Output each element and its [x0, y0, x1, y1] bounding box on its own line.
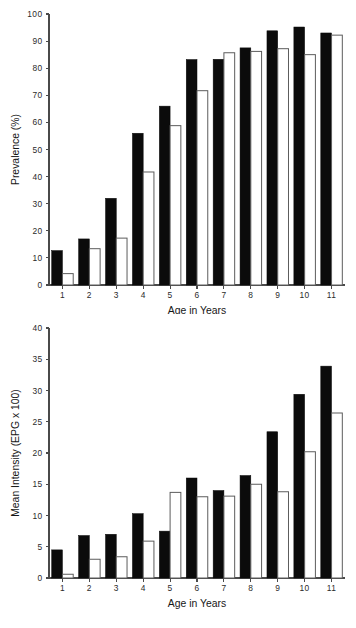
bar-solid — [321, 33, 332, 285]
x-axis-tick-label: 5 — [168, 290, 173, 300]
x-axis-tick-label: 5 — [168, 583, 173, 593]
bar-open — [143, 172, 154, 285]
bar-open — [305, 452, 316, 578]
x-axis-tick-label: 10 — [300, 583, 310, 593]
bar-open — [116, 238, 127, 285]
y-axis-tick-label: 30 — [32, 199, 42, 209]
bar-open — [305, 55, 316, 285]
bar-solid — [79, 536, 90, 579]
x-axis-tick-label: 6 — [194, 290, 199, 300]
y-axis-tick-label: 70 — [32, 90, 42, 100]
x-axis-tick-label: 1 — [60, 583, 65, 593]
y-axis-tick-label: 35 — [32, 354, 42, 364]
y-axis-tick-label: 20 — [32, 448, 42, 458]
bar-solid — [267, 432, 278, 578]
bar-open — [251, 51, 262, 285]
figure-root: 01020304050607080901001234567891011Age i… — [0, 0, 356, 628]
chart-panel-mean-intensity: 05101520253035401234567891011Age in Year… — [0, 314, 356, 628]
bar-open — [251, 484, 262, 578]
y-axis-tick-label: 100 — [27, 9, 42, 19]
bar-solid — [132, 514, 143, 578]
y-axis-tick-label: 80 — [32, 63, 42, 73]
bar-solid — [159, 531, 170, 578]
x-axis-tick-label: 4 — [141, 583, 146, 593]
x-axis-tick-label: 3 — [114, 290, 119, 300]
x-axis-tick-label: 4 — [141, 290, 146, 300]
x-axis-tick-label: 8 — [248, 583, 253, 593]
x-axis-tick-label: 2 — [87, 290, 92, 300]
y-axis-tick-label: 20 — [32, 226, 42, 236]
x-axis-tick-label: 2 — [87, 583, 92, 593]
x-axis-tick-label: 3 — [114, 583, 119, 593]
bar-open — [278, 492, 289, 578]
x-axis-tick-label: 7 — [221, 583, 226, 593]
x-axis-title: Age in Years — [168, 305, 226, 314]
bar-open — [62, 574, 73, 578]
chart-panel-prevalence: 01020304050607080901001234567891011Age i… — [0, 0, 356, 314]
y-axis-tick-label: 30 — [32, 386, 42, 396]
bar-open — [89, 559, 100, 578]
y-axis-title: Prevalence (%) — [10, 114, 21, 185]
y-axis-tick-label: 25 — [32, 417, 42, 427]
bar-solid — [213, 59, 224, 285]
bar-solid — [79, 239, 90, 285]
bar-solid — [240, 48, 251, 285]
bar-open — [197, 497, 208, 578]
x-axis-tick-label: 9 — [275, 290, 280, 300]
bar-open — [332, 413, 343, 578]
bar-solid — [294, 27, 305, 285]
bar-open — [224, 496, 235, 578]
y-axis-tick-label: 10 — [32, 511, 42, 521]
bar-solid — [186, 478, 197, 578]
x-axis-tick-label: 7 — [221, 290, 226, 300]
bar-solid — [213, 491, 224, 579]
y-axis-tick-label: 10 — [32, 253, 42, 263]
y-axis-tick-label: 60 — [32, 117, 42, 127]
bar-open — [278, 49, 289, 285]
bar-solid — [52, 251, 63, 285]
mean-intensity-bar-chart: 05101520253035401234567891011Age in Year… — [0, 314, 356, 628]
x-axis-tick-label: 9 — [275, 583, 280, 593]
bar-solid — [106, 534, 117, 578]
bar-open — [332, 35, 343, 285]
x-axis-tick-label: 8 — [248, 290, 253, 300]
y-axis-tick-label: 0 — [37, 280, 42, 290]
x-axis-tick-label: 11 — [327, 583, 337, 593]
x-axis-tick-label: 6 — [194, 583, 199, 593]
bar-open — [116, 557, 127, 578]
x-axis-tick-label: 11 — [327, 290, 337, 300]
y-axis-tick-label: 5 — [37, 542, 42, 552]
bar-solid — [294, 394, 305, 578]
bar-open — [143, 541, 154, 578]
bar-solid — [159, 106, 170, 285]
y-axis-title: Mean Intensity (EPG x 100) — [10, 389, 21, 517]
y-axis-tick-label: 90 — [32, 36, 42, 46]
prevalence-bar-chart: 01020304050607080901001234567891011Age i… — [0, 0, 356, 314]
x-axis-tick-label: 10 — [300, 290, 310, 300]
bar-open — [170, 126, 181, 285]
y-axis-tick-label: 15 — [32, 479, 42, 489]
x-axis-title: Age in Years — [168, 598, 226, 609]
bar-solid — [52, 550, 63, 578]
bar-solid — [106, 198, 117, 285]
bar-open — [197, 91, 208, 285]
x-axis-tick-label: 1 — [60, 290, 65, 300]
bar-solid — [321, 366, 332, 578]
bar-open — [170, 492, 181, 578]
y-axis-tick-label: 50 — [32, 145, 42, 155]
bar-open — [89, 249, 100, 285]
y-axis-tick-label: 40 — [32, 323, 42, 333]
bar-solid — [267, 31, 278, 285]
bar-solid — [132, 133, 143, 285]
y-axis-tick-label: 40 — [32, 172, 42, 182]
y-axis-tick-label: 0 — [37, 573, 42, 583]
bar-solid — [240, 476, 251, 579]
bar-open — [62, 274, 73, 285]
bar-solid — [186, 60, 197, 285]
bar-open — [224, 53, 235, 285]
